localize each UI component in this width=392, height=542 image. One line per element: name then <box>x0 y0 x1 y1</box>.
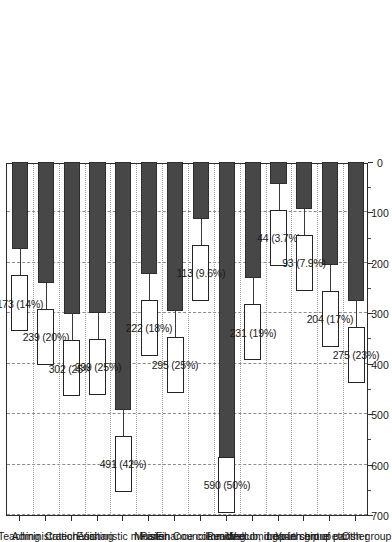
bar-catechesis <box>64 162 80 314</box>
data-label: 231 (19%) <box>244 305 261 361</box>
category-tick <box>148 516 149 521</box>
data-label: 295 (25%) <box>167 337 184 393</box>
axis-tick-label: 100 <box>368 207 392 219</box>
gridline-500 <box>7 413 367 414</box>
data-label-text: 222 (18%) <box>126 322 173 334</box>
axis-tick-label: 400 <box>368 359 392 371</box>
category-separator <box>317 164 318 515</box>
axis-tick-650 <box>368 490 371 491</box>
category-tick <box>45 516 46 521</box>
data-label-text: 239 (20%) <box>22 331 69 343</box>
data-label-text: 113 (9.6%) <box>177 267 226 279</box>
leader-line <box>279 184 280 210</box>
bar-teaching <box>12 162 28 249</box>
category-separator <box>240 164 241 515</box>
data-label: 173 (14%) <box>11 275 28 331</box>
bar-parish-council <box>167 162 183 311</box>
category-separator <box>214 164 215 515</box>
value-axis: 0100200300400500600700 <box>368 163 378 516</box>
data-label: 204 (17%) <box>322 291 339 347</box>
bar-welcoming <box>245 162 261 278</box>
data-label: 491 (42%) <box>115 436 132 492</box>
category-tick <box>122 516 123 521</box>
bar-visiting <box>89 162 105 313</box>
gridline-100 <box>7 211 367 212</box>
axis-tick-550 <box>368 439 371 440</box>
axis-tick-label: 200 <box>368 258 392 270</box>
axis-tick-450 <box>368 389 371 390</box>
data-label-text: 299 (25%) <box>74 361 121 373</box>
leader-line <box>201 219 202 245</box>
axis-tick-label: 500 <box>368 409 392 421</box>
axis-tick-label: 600 <box>368 460 392 472</box>
data-label-text: 44 (3.7%) <box>257 232 301 244</box>
axis-tick-label: 700 <box>368 510 392 522</box>
category-tick <box>71 516 72 521</box>
plot-area: 173 (14%)239 (20%)302 (25%)299 (25%)491 … <box>6 163 368 516</box>
bar-other <box>348 162 364 301</box>
axis-tick-150 <box>368 238 371 239</box>
leader-line <box>330 265 331 291</box>
bar-reading <box>219 162 235 460</box>
data-label: 113 (9.6%) <box>192 245 209 301</box>
leader-line <box>72 314 73 340</box>
data-label-text: 590 (50%) <box>203 479 250 491</box>
category-tick <box>278 516 279 521</box>
category-separator <box>162 164 163 515</box>
axis-tick-350 <box>368 339 371 340</box>
bar-finance-committee <box>193 162 209 219</box>
category-separator <box>85 164 86 515</box>
leader-line <box>304 209 305 235</box>
data-label: 222 (18%) <box>141 300 158 356</box>
category-label-other: Other <box>342 530 368 542</box>
data-label-text: 231 (19%) <box>229 327 276 339</box>
data-label-text: 204 (17%) <box>307 313 354 325</box>
leader-line <box>175 311 176 337</box>
bar-lunch-club-drop-in-centre-etc <box>270 162 286 184</box>
data-label-text: 295 (25%) <box>152 359 199 371</box>
leader-line <box>123 410 124 436</box>
category-separator <box>188 164 189 515</box>
leader-line <box>46 283 47 309</box>
data-label-text: 173 (14%) <box>0 297 43 309</box>
bar-leadership-of-parish-group <box>322 162 338 265</box>
leader-line <box>98 313 99 339</box>
category-tick <box>329 516 330 521</box>
data-label: 299 (25%) <box>89 339 106 395</box>
leader-line <box>356 301 357 327</box>
category-tick <box>252 516 253 521</box>
category-tick <box>19 516 20 521</box>
bar-youth-group <box>296 162 312 209</box>
bar-administration <box>38 162 54 283</box>
category-label-leadership-of-parish-group: Leadership of parish group <box>267 530 392 542</box>
category-tick <box>303 516 304 521</box>
category-separator <box>266 164 267 515</box>
category-tick <box>200 516 201 521</box>
data-label: 275 (23%) <box>348 327 365 383</box>
axis-tick-250 <box>368 288 371 289</box>
leader-line <box>253 279 254 305</box>
bar-music <box>141 162 157 274</box>
category-tick <box>174 516 175 521</box>
gridline-700 <box>7 514 367 515</box>
category-tick <box>226 516 227 521</box>
category-tick <box>355 516 356 521</box>
gridline-600 <box>7 464 367 465</box>
data-label-text: 93 (7.9%) <box>282 257 326 269</box>
category-separator <box>343 164 344 515</box>
data-label-text: 491 (42%) <box>100 458 147 470</box>
data-label: 239 (20%) <box>37 309 54 365</box>
leader-line <box>20 249 21 275</box>
data-label: 590 (50%) <box>218 457 235 513</box>
axis-tick-label: 300 <box>368 308 392 320</box>
data-label: 93 (7.9%) <box>296 235 313 291</box>
category-separator <box>291 164 292 515</box>
axis-tick-label: 0 <box>368 157 392 169</box>
axis-tick-50 <box>368 187 371 188</box>
leader-line <box>149 274 150 300</box>
category-tick <box>97 516 98 521</box>
